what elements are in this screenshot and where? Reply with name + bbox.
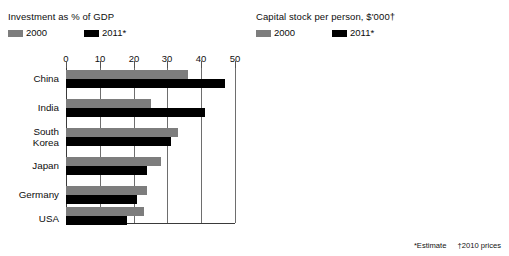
x-tick-mark [100, 61, 101, 68]
legend-swatch-black-icon [84, 30, 99, 37]
legend-label-2000: 2000 [26, 28, 47, 38]
bar-group-south-korea: SouthKorea [66, 128, 235, 150]
legend-item-2011: 2011* [84, 28, 126, 38]
x-tick-mark [66, 61, 67, 68]
category-label-usa: USA [39, 214, 59, 225]
bar-japan-2011[interactable] [66, 166, 147, 175]
plot-area-investment: 0 10 20 30 40 50 China [66, 68, 235, 223]
legend-item-2000: 2000 [256, 28, 295, 38]
category-label-china: China [33, 74, 59, 85]
bar-group-japan: Japan [66, 157, 235, 179]
x-tick-mark [235, 61, 236, 68]
x-tick-mark [134, 61, 135, 68]
bar-group-india: India [66, 99, 235, 121]
category-label-germany: Germany [19, 190, 59, 201]
bar-south-korea-2011[interactable] [66, 137, 171, 146]
gridline [235, 68, 236, 223]
bar-japan-2000[interactable] [66, 157, 161, 166]
legend-label-2011: 2011* [350, 28, 374, 38]
category-label-japan: Japan [32, 161, 59, 172]
bar-germany-2000[interactable] [66, 186, 147, 195]
bar-china-2011[interactable] [66, 79, 225, 88]
chart-title-investment: Investment as % of GDP [8, 11, 114, 22]
chart-panel-investment: Investment as % of GDP 2000 2011* 0 10 2… [0, 0, 250, 256]
legend-label-2011: 2011* [102, 28, 126, 38]
legend-label-2000: 2000 [274, 28, 295, 38]
bar-india-2000[interactable] [66, 99, 151, 108]
bar-south-korea-2000[interactable] [66, 128, 178, 137]
chart-title-capital-stock: Capital stock per person, $'000† [256, 11, 395, 22]
category-label-india: India [38, 103, 59, 114]
legend-swatch-black-icon [332, 30, 347, 37]
footnote-estimate: *Estimate [414, 241, 447, 250]
bar-usa-2000[interactable] [66, 207, 144, 216]
x-tick-mark [167, 61, 168, 68]
legend-swatch-grey-icon [8, 30, 23, 37]
legend-swatch-grey-icon [256, 30, 271, 37]
figure-two-bar-charts: Investment as % of GDP 2000 2011* 0 10 2… [0, 0, 509, 256]
footnote-prices: †2010 prices [458, 241, 501, 250]
bar-germany-2011[interactable] [66, 195, 137, 204]
bar-india-2011[interactable] [66, 108, 205, 117]
legend-item-2011: 2011* [332, 28, 374, 38]
bar-group-germany: Germany [66, 186, 235, 208]
chart-panel-capital-stock: Capital stock per person, $'000† 2000 20… [250, 0, 509, 256]
legend-item-2000: 2000 [8, 28, 47, 38]
bar-china-2000[interactable] [66, 70, 188, 79]
x-tick-mark [201, 61, 202, 68]
bar-usa-2011[interactable] [66, 216, 127, 225]
bar-group-usa: USA [66, 215, 235, 237]
bar-group-china: China [66, 70, 235, 92]
footnotes: *Estimate †2010 prices [405, 241, 501, 250]
category-label-south-korea: SouthKorea [33, 127, 59, 148]
